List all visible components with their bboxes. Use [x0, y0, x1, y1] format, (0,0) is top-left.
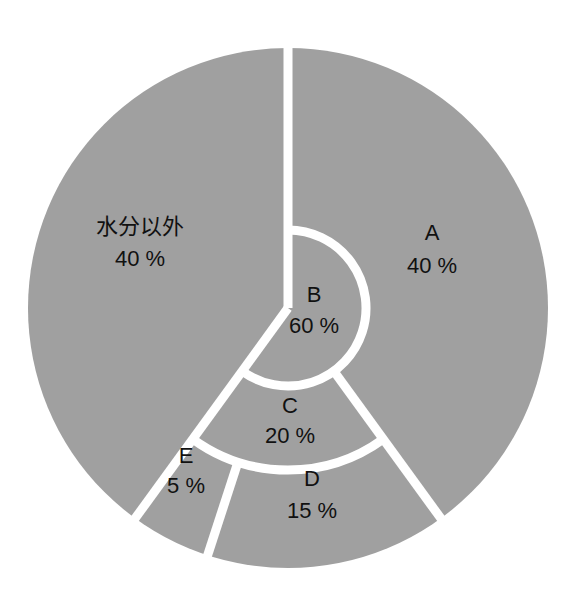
label-e-name: E — [179, 443, 194, 468]
label-e-pct: 5 % — [167, 473, 205, 498]
label-d-pct: 15 % — [287, 498, 337, 523]
label-c-name: C — [282, 393, 298, 418]
label-other-name: 水分以外 — [96, 214, 184, 239]
label-a-name: A — [425, 220, 440, 245]
label-b-pct: 60 % — [289, 313, 339, 338]
label-other-pct: 40 % — [115, 246, 165, 271]
label-a-pct: 40 % — [407, 253, 457, 278]
nested-pie-chart: 水分以外 40 % A 40 % B 60 % C 20 % E 5 % D 1… — [0, 0, 573, 601]
label-b-name: B — [307, 282, 322, 307]
label-d-name: D — [304, 466, 320, 491]
label-c-pct: 20 % — [265, 423, 315, 448]
